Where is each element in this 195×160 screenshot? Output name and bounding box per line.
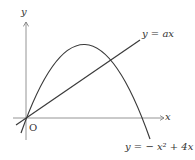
line-label: y = ax — [142, 29, 174, 39]
x-axis-label: x — [165, 112, 171, 122]
parabola-curve — [21, 44, 150, 139]
graph-diagram: y x O y = ax y = − x² + 4x — [0, 0, 195, 160]
origin-label: O — [29, 123, 37, 133]
parabola-label: y = − x² + 4x — [125, 142, 193, 152]
graph-svg — [0, 0, 195, 160]
y-axis-label: y — [21, 7, 27, 17]
line-y-ax — [16, 40, 140, 125]
